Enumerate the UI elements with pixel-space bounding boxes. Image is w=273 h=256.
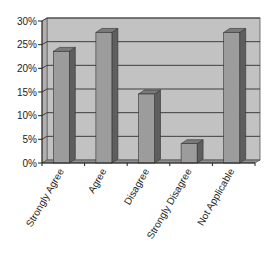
y-tick-label: 0% (23, 158, 38, 169)
x-tick-label: Strongly Agree (24, 166, 67, 229)
y-tick-label: 5% (23, 134, 38, 145)
x-tick-label: Strongly Disagree (145, 166, 194, 241)
bar-strongly-disagree (181, 140, 203, 163)
bar-not-applicable (224, 28, 246, 163)
y-tick-label: 30% (17, 16, 37, 27)
x-axis-labels: Strongly AgreeAgreeDisagreeStrongly Disa… (24, 166, 237, 241)
y-tick-label: 20% (17, 63, 37, 74)
y-tick-label: 25% (17, 39, 37, 50)
x-tick-label: Agree (86, 166, 109, 195)
x-tick-label: Disagree (122, 166, 152, 207)
x-tick-label: Not Applicable (195, 166, 237, 227)
bar-chart: 0%5%10%15%20%25%30% Strongly AgreeAgreeD… (0, 0, 273, 256)
y-tick-label: 10% (17, 110, 37, 121)
bar-disagree (139, 90, 161, 163)
y-tick-label: 15% (17, 87, 37, 98)
bar-agree (96, 28, 118, 163)
bar-strongly-agree (53, 47, 75, 163)
